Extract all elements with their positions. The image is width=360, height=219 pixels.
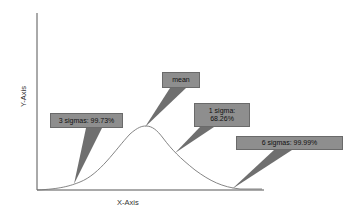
mean-label: mean xyxy=(172,76,190,84)
bell-curve xyxy=(37,126,262,190)
x-axis-label: X-Axis xyxy=(117,198,139,207)
three-sigma-pointer xyxy=(74,128,102,184)
mean-callout: mean xyxy=(162,72,200,88)
one-sigma-label-line2: 68.26% xyxy=(210,115,234,123)
three-sigma-callout: 3 sigmas: 99.73% xyxy=(50,113,123,128)
one-sigma-callout: 1 sigma: 68.26% xyxy=(194,103,250,127)
mean-pointer xyxy=(145,88,186,127)
six-sigma-pointer xyxy=(232,150,292,189)
one-sigma-label-line1: 1 sigma: xyxy=(209,107,235,115)
six-sigma-callout: 6 sigmas: 99.99% xyxy=(236,136,343,150)
y-axis-label: Y-Axis xyxy=(19,83,28,111)
six-sigma-label: 6 sigmas: 99.99% xyxy=(262,139,318,147)
diagram-canvas xyxy=(0,0,360,219)
one-sigma-pointer xyxy=(175,127,214,153)
three-sigma-label: 3 sigmas: 99.73% xyxy=(59,117,115,125)
